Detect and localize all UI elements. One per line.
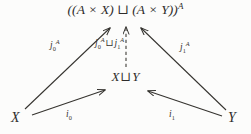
arrow-label-j0-subscript: 0 bbox=[53, 45, 56, 52]
arrow-label-induced-right-subscript: 1 bbox=[117, 43, 120, 50]
coproduct-object-right: Y bbox=[132, 69, 139, 84]
codomain-object-base: ((A × X) ⊔ (A × Y)) bbox=[68, 2, 178, 17]
arrow-label-induced-operator-icon: ⊔ bbox=[105, 38, 115, 48]
coproduct-object-left: X bbox=[111, 69, 119, 84]
arrow-label-i0-subscript: 0 bbox=[69, 114, 72, 121]
arrow-label-j1: j1A bbox=[180, 43, 190, 53]
arrow-label-j0: j0A bbox=[50, 41, 60, 51]
arrow-label-induced-right-superscript: A bbox=[120, 36, 124, 43]
codomain-object: ((A × X) ⊔ (A × Y))A bbox=[68, 3, 184, 17]
arrow-label-i0: i0 bbox=[66, 110, 72, 120]
commutative-diagram: ((A × X) ⊔ (A × Y))A X⊔Y X Y j0A j1A j0A… bbox=[0, 0, 251, 134]
coproduct-object: X⊔Y bbox=[111, 70, 139, 83]
arrow-label-induced: j0A⊔j1A bbox=[95, 39, 124, 49]
arrow-label-i1: i1 bbox=[169, 110, 175, 120]
arrow-label-i1-subscript: 1 bbox=[172, 114, 175, 121]
source-object-x: X bbox=[11, 111, 20, 125]
codomain-object-exponent: A bbox=[178, 1, 184, 11]
source-object-y: Y bbox=[228, 111, 236, 125]
coproduct-operator-icon: ⊔ bbox=[119, 69, 132, 84]
arrow-label-j1-subscript: 1 bbox=[183, 47, 186, 54]
arrow-label-j1-superscript: A bbox=[186, 40, 190, 47]
arrow-label-induced-left-subscript: 0 bbox=[98, 43, 101, 50]
arrow-line-j1 bbox=[141, 28, 226, 110]
arrow-layer bbox=[0, 0, 251, 134]
arrow-label-j0-superscript: A bbox=[56, 38, 60, 45]
